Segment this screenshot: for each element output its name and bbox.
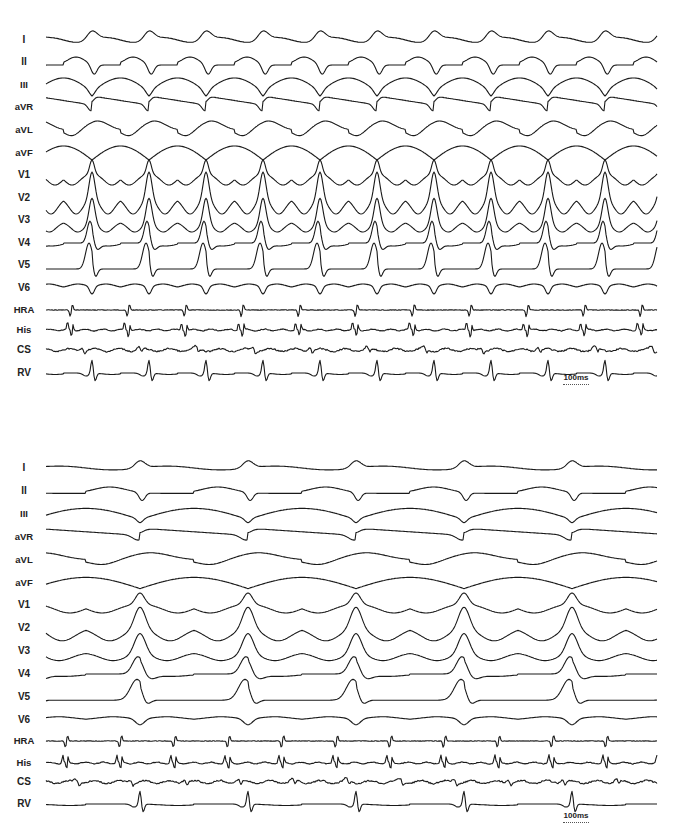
lead-label-avr: aVR bbox=[4, 531, 44, 542]
lead-label-iii: III bbox=[4, 508, 44, 519]
trace-cs bbox=[46, 345, 657, 354]
trace-ii bbox=[46, 487, 657, 501]
lead-label-iii: III bbox=[4, 79, 44, 90]
trace-iii bbox=[46, 508, 657, 522]
scale-bar-label: 100ms bbox=[556, 811, 596, 820]
lead-label-v4: V4 bbox=[4, 668, 44, 679]
lead-label-avl: aVL bbox=[4, 554, 44, 565]
scale-bar bbox=[563, 384, 589, 385]
lead-label-ii: II bbox=[4, 485, 44, 496]
trace-ii bbox=[46, 57, 657, 74]
lead-label-v5: V5 bbox=[4, 691, 44, 702]
trace-his bbox=[46, 323, 657, 337]
trace-hra bbox=[46, 305, 657, 317]
lead-label-cs: CS bbox=[4, 344, 44, 355]
lead-label-v1: V1 bbox=[4, 599, 44, 610]
lead-label-v3: V3 bbox=[4, 214, 44, 225]
trace-v1 bbox=[46, 160, 657, 185]
trace-i bbox=[46, 31, 657, 42]
lead-label-i: I bbox=[4, 462, 44, 473]
lead-label-his: His bbox=[4, 757, 44, 768]
lead-label-hra: HRA bbox=[4, 735, 44, 746]
lead-label-v6: V6 bbox=[4, 282, 44, 293]
lead-label-rv: RV bbox=[4, 798, 44, 809]
panel-bottom bbox=[46, 461, 657, 812]
lead-label-avl: aVL bbox=[4, 124, 44, 135]
trace-v5 bbox=[46, 243, 657, 276]
trace-hra bbox=[46, 736, 657, 747]
trace-v5 bbox=[46, 679, 657, 703]
lead-label-v4: V4 bbox=[4, 237, 44, 248]
lead-label-hra: HRA bbox=[4, 304, 44, 315]
panel-top bbox=[46, 31, 657, 381]
trace-i bbox=[46, 461, 657, 470]
trace-avf bbox=[46, 577, 657, 588]
trace-avr bbox=[46, 97, 657, 111]
trace-avr bbox=[46, 529, 657, 540]
trace-cs bbox=[46, 778, 657, 787]
lead-label-cs: CS bbox=[4, 776, 44, 787]
trace-avl bbox=[46, 121, 657, 136]
trace-v6 bbox=[46, 284, 657, 294]
trace-rv bbox=[46, 791, 657, 811]
lead-label-v5: V5 bbox=[4, 259, 44, 270]
scale-bar-label: 100ms bbox=[556, 373, 596, 382]
trace-his bbox=[46, 755, 657, 768]
trace-v6 bbox=[46, 717, 657, 725]
lead-label-v3: V3 bbox=[4, 645, 44, 656]
trace-avf bbox=[46, 146, 657, 160]
trace-v4 bbox=[46, 657, 657, 679]
lead-label-avf: aVF bbox=[4, 147, 44, 158]
lead-label-v1: V1 bbox=[4, 169, 44, 180]
lead-label-v6: V6 bbox=[4, 714, 44, 725]
lead-label-avf: aVF bbox=[4, 577, 44, 588]
trace-iii bbox=[46, 78, 657, 96]
lead-label-i: I bbox=[4, 34, 44, 45]
lead-label-v2: V2 bbox=[4, 622, 44, 633]
lead-label-rv: RV bbox=[4, 367, 44, 378]
lead-label-avr: aVR bbox=[4, 101, 44, 112]
trace-canvas bbox=[0, 0, 686, 837]
lead-label-his: His bbox=[4, 324, 44, 335]
lead-label-ii: II bbox=[4, 56, 44, 67]
trace-v4 bbox=[46, 221, 657, 249]
trace-v2 bbox=[46, 172, 657, 214]
scale-bar bbox=[563, 822, 589, 823]
trace-avl bbox=[46, 553, 657, 565]
lead-label-v2: V2 bbox=[4, 192, 44, 203]
